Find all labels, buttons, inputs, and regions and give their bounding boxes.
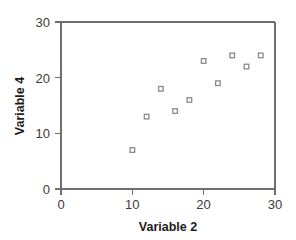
x-tick-label-20: 20 xyxy=(196,197,210,212)
y-tick-label-20: 20 xyxy=(36,71,50,86)
data-points-group xyxy=(130,53,263,152)
data-point xyxy=(230,53,235,58)
x-tick-label-30: 30 xyxy=(268,197,282,212)
plot-canvas: 0 10 20 30 0 10 20 30 Variable 2 Variabl… xyxy=(0,0,296,240)
x-tick-marks xyxy=(61,189,275,195)
scatter-plot-figure: 0 10 20 30 0 10 20 30 Variable 2 Variabl… xyxy=(0,0,296,240)
data-point xyxy=(216,81,221,86)
data-point xyxy=(159,87,164,92)
y-tick-labels: 0 10 20 30 xyxy=(36,15,50,197)
data-point xyxy=(244,64,249,69)
data-point xyxy=(130,148,135,153)
y-tick-label-10: 10 xyxy=(36,126,50,141)
data-point xyxy=(144,114,149,119)
y-tick-label-30: 30 xyxy=(36,15,50,30)
y-axis-title: Variable 4 xyxy=(13,77,27,135)
data-point xyxy=(173,109,178,114)
axes-group xyxy=(61,22,275,189)
x-tick-label-0: 0 xyxy=(57,197,64,212)
y-tick-marks xyxy=(55,22,61,189)
x-tick-labels: 0 10 20 30 xyxy=(57,197,282,212)
x-tick-label-10: 10 xyxy=(125,197,139,212)
y-tick-label-0: 0 xyxy=(43,182,50,197)
data-point xyxy=(201,59,206,64)
data-point xyxy=(187,98,192,103)
data-point xyxy=(258,53,263,58)
x-axis-title: Variable 2 xyxy=(139,220,197,234)
